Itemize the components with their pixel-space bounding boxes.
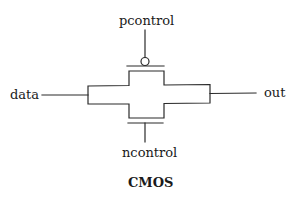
output-wire bbox=[210, 93, 256, 94]
transmission-gate-body bbox=[88, 71, 210, 118]
diagram-title: CMOS bbox=[128, 176, 173, 189]
cmos-transmission-gate-diagram bbox=[0, 0, 295, 198]
out-label: out bbox=[264, 86, 285, 99]
ncontrol-label: ncontrol bbox=[122, 146, 177, 159]
pcontrol-label: pcontrol bbox=[119, 14, 174, 27]
inversion-bubble-icon bbox=[141, 58, 149, 66]
data-label: data bbox=[10, 88, 39, 101]
